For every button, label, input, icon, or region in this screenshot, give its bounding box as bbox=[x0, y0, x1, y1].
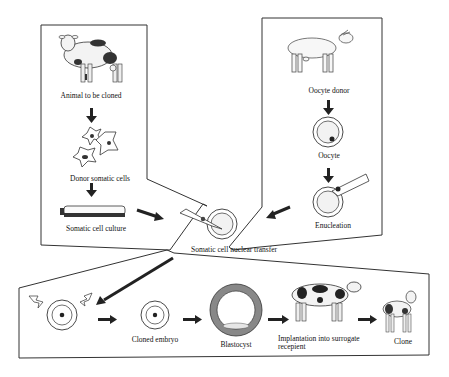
enucleation-label: Enucleation bbox=[315, 222, 351, 230]
somatic-cells-icon bbox=[73, 127, 118, 167]
clone-calf-icon bbox=[383, 291, 416, 332]
arrow-down-icon bbox=[86, 183, 97, 197]
cloned-embryo-icon bbox=[141, 301, 169, 329]
oocyte-donor-label: Oocyte donor bbox=[308, 87, 349, 95]
animal-to-be-cloned-label: Animal to be cloned bbox=[60, 92, 121, 100]
donor-cow-icon bbox=[59, 35, 122, 82]
arrow-right-icon bbox=[183, 315, 202, 324]
cloned-embryo-label: Cloned embryo bbox=[132, 336, 178, 344]
donor-somatic-cells-label: Donor somatic cells bbox=[70, 175, 130, 183]
arrow-left-icon bbox=[266, 207, 290, 219]
clone-label: Clone bbox=[394, 338, 412, 346]
culture-flask-icon bbox=[60, 206, 125, 217]
blastocyst-label: Blastocyst bbox=[220, 341, 251, 349]
oocyte-icon bbox=[313, 117, 343, 147]
arrow-down-icon bbox=[323, 168, 334, 183]
enucleation-icon bbox=[313, 174, 369, 217]
surrogate-cow-icon bbox=[292, 282, 361, 321]
oocyte-label: Oocyte bbox=[318, 152, 340, 160]
oocyte-donor-cow-icon bbox=[288, 30, 353, 72]
arrow-right-icon bbox=[137, 210, 164, 221]
scnt-label: Somatic cell nuclear transfer bbox=[191, 246, 277, 254]
implantation-label: Implantation into surrogate recepient bbox=[278, 335, 360, 352]
arrow-right-icon bbox=[268, 315, 289, 324]
somatic-cell-culture-label: Somatic cell culture bbox=[66, 225, 126, 233]
arrow-right-icon bbox=[358, 315, 377, 324]
arrow-right-icon bbox=[98, 315, 117, 324]
electrofusion-cell-icon bbox=[29, 293, 92, 330]
diagram-canvas bbox=[0, 0, 449, 377]
arrow-down-icon bbox=[86, 108, 97, 123]
implantation-label-line2: recepient bbox=[278, 343, 360, 351]
blastocyst-icon bbox=[210, 284, 262, 336]
arrow-down-icon bbox=[323, 100, 334, 115]
